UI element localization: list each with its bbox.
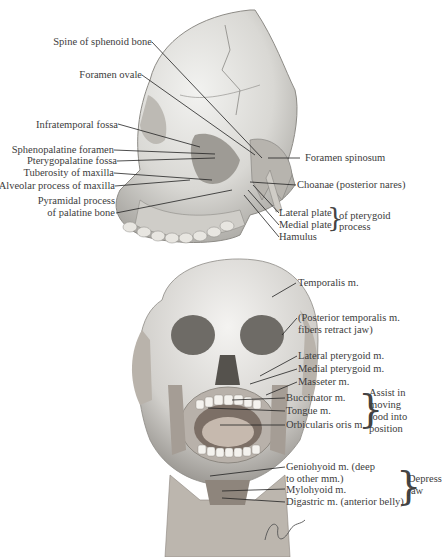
label-pyramidal-process-line1: Pyramidal process (38, 195, 115, 207)
label-moving: moving (369, 399, 401, 411)
label-buccinator: Buccinator m. (286, 392, 345, 404)
label-depress: Depress (408, 473, 442, 485)
label-infratemporal-fossa: Infratemporal fossa (36, 119, 118, 131)
label-posterior-temporalis-line1: (Posterior temporalis m. (298, 312, 400, 324)
label-foramen-ovale: Foramen ovale (79, 69, 142, 81)
label-lateral-plate: Lateral plate (279, 207, 332, 219)
label-tuberosity-maxilla: Tuberosity of maxilla (23, 167, 114, 179)
label-posterior-temporalis-line2: fibers retract jaw) (298, 324, 373, 336)
label-medial-plate: Medial plate (279, 219, 332, 231)
label-alveolar-process: Alveolar process of maxilla (0, 180, 115, 192)
label-geniohyoid-line1: Geniohyoid m. (deep (286, 461, 375, 473)
label-pterygopalatine-fossa: Pterygopalatine fossa (27, 155, 117, 167)
label-food-into: food into (369, 411, 407, 423)
label-digastric: Digastric m. (anterior belly) (286, 496, 404, 508)
label-temporalis: Temporalis m. (298, 277, 359, 289)
label-choanae: Choanae (posterior nares) (297, 179, 405, 191)
label-masseter: Masseter m. (298, 376, 349, 388)
label-assist-in: Assist in (369, 387, 405, 399)
label-mylohyoid: Mylohyoid m. (286, 484, 346, 496)
label-orbicularis-oris: Orbicularis oris m. (286, 419, 365, 431)
label-process: process (339, 221, 371, 233)
label-hamulus: Hamulus (279, 231, 317, 243)
label-medial-pterygoid: Medial pterygoid m. (298, 363, 384, 375)
label-lateral-pterygoid: Lateral pterygoid m. (298, 350, 384, 362)
label-spine-of-sphenoid: Spine of sphenoid bone (53, 36, 152, 48)
label-position: position (369, 423, 403, 435)
label-jaw: jaw (408, 485, 423, 497)
label-foramen-spinosum: Foramen spinosum (305, 152, 385, 164)
label-tongue: Tongue m. (286, 405, 331, 417)
label-pyramidal-process-line2: of palatine bone (47, 207, 115, 219)
